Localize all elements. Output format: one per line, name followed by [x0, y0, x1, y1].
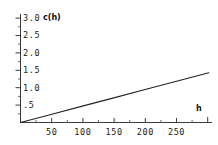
chart-container: .5 1.0 1.5 2.0 2.5 3.0 50 100 150 200 25…	[0, 0, 218, 145]
x-tick-label-4: 250	[164, 128, 190, 137]
x-axis-title: h	[196, 105, 202, 113]
x-tick-label-3: 200	[132, 128, 158, 137]
y-tick-label-5: 3.0	[23, 14, 40, 23]
x-tick-label-1: 100	[70, 128, 96, 137]
x-tick-label-2: 150	[101, 128, 127, 137]
data-series-line	[21, 73, 209, 123]
y-tick-label-0: .5	[23, 101, 34, 110]
y-tick-label-4: 2.5	[23, 31, 40, 40]
y-tick-label-1: 1.0	[23, 84, 40, 93]
x-tick-label-0: 50	[39, 128, 65, 137]
y-tick-label-3: 2.0	[23, 49, 40, 58]
y-axis-title: c(h)	[43, 14, 61, 22]
y-tick-label-2: 1.5	[23, 66, 40, 75]
